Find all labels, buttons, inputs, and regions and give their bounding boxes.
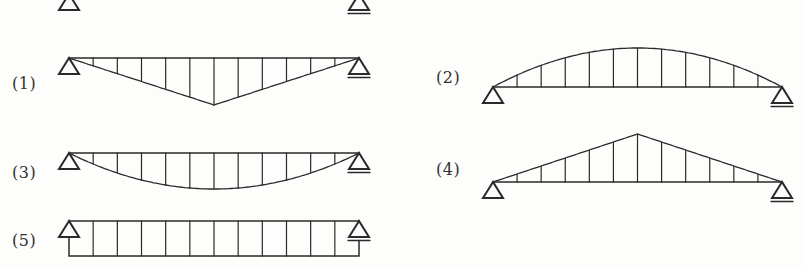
pin-support-icon (483, 182, 503, 198)
label-5: (5) (12, 231, 36, 250)
pin-support-icon (483, 87, 503, 103)
roller-support-icon (772, 182, 792, 198)
roller-support-icon (349, 221, 369, 237)
pin-support-icon (59, 153, 79, 169)
diagram-canvas (0, 0, 806, 266)
roller-support-icon (349, 153, 369, 169)
label-3: (3) (12, 163, 36, 182)
beam-diagram-figure: (1) (2) (3) (4) (5) (0, 0, 806, 266)
label-2: (2) (436, 68, 460, 87)
top-pin-support-icon (59, 0, 79, 10)
pin-support-icon (59, 221, 79, 237)
top-roller-support-icon (349, 0, 369, 10)
label-1: (1) (12, 74, 36, 93)
roller-support-icon (772, 87, 792, 103)
label-4: (4) (436, 160, 460, 179)
